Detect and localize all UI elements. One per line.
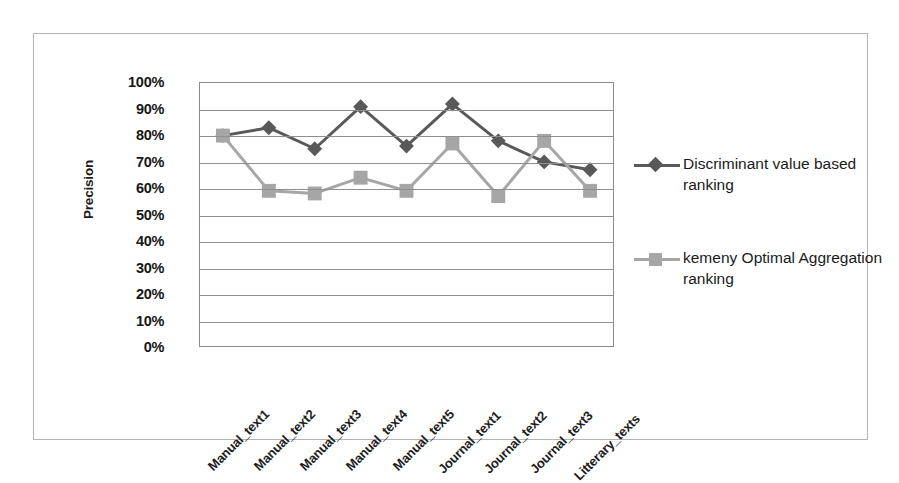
y-axis-tick-label: 50% [86, 207, 164, 222]
square-marker-icon [649, 253, 662, 266]
y-axis-tick-label: 80% [86, 128, 164, 143]
data-point-square-marker[interactable] [354, 171, 368, 185]
gridline [200, 295, 613, 296]
legend-label-line1: Discriminant value [683, 155, 810, 172]
gridline [200, 110, 613, 111]
data-point-square-marker[interactable] [262, 184, 276, 198]
gridline [200, 322, 613, 323]
data-point-diamond-marker[interactable] [583, 162, 598, 177]
y-axis-tick-label: 20% [86, 287, 164, 302]
y-axis-tick-label: 0% [86, 340, 164, 355]
x-axis-tick-labels: Manual_text1Manual_text2Manual_text3Manu… [199, 350, 614, 470]
series-lines [200, 83, 613, 346]
chart-frame: Precision 100%90%80%70%60%50%40%30%20%10… [33, 33, 868, 440]
legend-label-discriminant: Discriminant value based ranking [680, 154, 883, 196]
y-axis-tick-labels: 100%90%80%70%60%50%40%30%20%10%0% [86, 82, 164, 347]
data-point-diamond-marker[interactable] [537, 154, 552, 169]
y-axis-tick-label: 10% [86, 313, 164, 328]
gridline [200, 216, 613, 217]
data-point-square-marker[interactable] [400, 184, 414, 198]
y-axis-tick-label: 60% [86, 181, 164, 196]
gridline [200, 242, 613, 243]
legend-label-line1: kemeny Optimal [683, 249, 795, 266]
gridline [200, 189, 613, 190]
y-axis-tick-label: 70% [86, 154, 164, 169]
data-point-diamond-marker[interactable] [261, 120, 276, 135]
gridline [200, 163, 613, 164]
y-axis-tick-label: 30% [86, 260, 164, 275]
y-axis-tick-label: 40% [86, 234, 164, 249]
legend-entry-kemeny[interactable]: kemeny Optimal Aggregation ranking [634, 248, 889, 290]
legend-swatch-diamond-icon [634, 156, 680, 174]
legend-entry-discriminant[interactable]: Discriminant value based ranking [634, 154, 889, 196]
y-axis-tick-label: 100% [86, 75, 164, 90]
legend-swatch-square-icon [634, 250, 680, 268]
gridline [200, 269, 613, 270]
data-point-square-marker[interactable] [445, 137, 459, 151]
plot-area [199, 82, 614, 347]
gridline [200, 136, 613, 137]
data-point-square-marker[interactable] [491, 189, 505, 203]
diamond-marker-icon [648, 157, 664, 173]
y-axis-tick-label: 90% [86, 101, 164, 116]
legend-label-kemeny: kemeny Optimal Aggregation ranking [680, 248, 883, 290]
chart-legend: Discriminant value based ranking kemeny … [634, 154, 889, 342]
data-point-square-marker[interactable] [583, 184, 597, 198]
